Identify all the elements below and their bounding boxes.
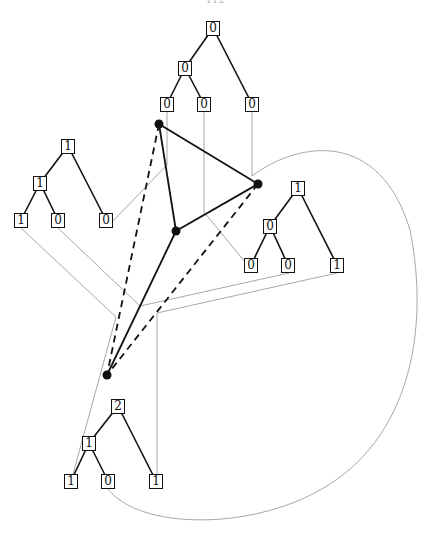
- tree-node-top: 0: [245, 97, 259, 112]
- graph-edge-dashed: [107, 184, 258, 375]
- tree-edge: [213, 28, 252, 104]
- tree-node-left: 1: [33, 176, 47, 191]
- graph-edge-solid: [107, 231, 176, 375]
- connector-lines: [21, 112, 417, 520]
- vertex-A: [155, 120, 164, 129]
- tree-edge: [68, 146, 106, 220]
- graph-vertices: [103, 120, 263, 380]
- tree-node-bottom: 2: [111, 399, 125, 414]
- tree-node-bottom: 1: [64, 474, 78, 489]
- tree-node-bottom: 1: [82, 436, 96, 451]
- connector-line: [204, 112, 245, 262]
- connector-curve: [108, 112, 417, 520]
- tree-node-top: 0: [160, 97, 174, 112]
- tree-node-right: 0: [244, 258, 258, 273]
- tree-node-left: 0: [51, 213, 65, 228]
- connector-line: [157, 273, 337, 474]
- tree-node-right: 0: [281, 258, 295, 273]
- graph-edge-solid: [159, 124, 258, 184]
- tree-node-right: 0: [263, 219, 277, 234]
- tree-node-bottom: 0: [101, 474, 115, 489]
- vertex-C: [172, 227, 181, 236]
- tree-node-bottom: 1: [149, 474, 163, 489]
- connector-line: [21, 228, 116, 474]
- tree-edges: [21, 28, 337, 481]
- tree-node-right: 1: [291, 181, 305, 196]
- tree-node-right: 1: [330, 258, 344, 273]
- graph-edge-dashed: [107, 124, 159, 375]
- tree-node-top: 0: [197, 97, 211, 112]
- graph-edge-solid: [176, 184, 258, 231]
- vertex-D: [103, 371, 112, 380]
- vertex-B: [254, 180, 263, 189]
- tree-node-left: 0: [99, 213, 113, 228]
- tree-node-left: 1: [14, 213, 28, 228]
- tree-node-left: 1: [61, 139, 75, 154]
- tree-node-top: 0: [206, 21, 220, 36]
- tree-edge: [298, 188, 337, 265]
- tree-edge: [118, 406, 156, 481]
- tree-node-top: 0: [178, 61, 192, 76]
- diagram-canvas: [0, 0, 431, 535]
